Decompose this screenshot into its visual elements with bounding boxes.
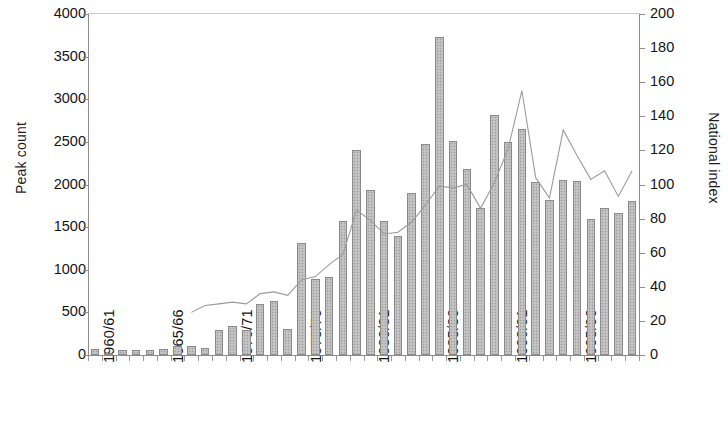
y-axis-right-tick-mark	[640, 355, 645, 356]
y-axis-left-tick-label: 3000	[54, 91, 86, 106]
bar	[380, 221, 389, 355]
bar	[449, 141, 458, 355]
bar	[187, 346, 196, 355]
x-axis-tick-mark	[281, 356, 282, 361]
bar	[173, 346, 182, 355]
y-axis-right-tick-mark	[640, 82, 645, 83]
bar	[435, 37, 444, 355]
y-axis-right-tick-label: 40	[650, 279, 666, 294]
x-axis-tick-mark	[350, 356, 351, 361]
x-axis-tick-mark	[432, 356, 433, 361]
y-axis-right-tick-label: 80	[650, 211, 666, 226]
bar	[518, 129, 527, 355]
bar	[352, 150, 361, 355]
bar	[407, 193, 416, 355]
y-axis-left-tick-label: 3500	[54, 49, 86, 64]
bar	[242, 330, 251, 355]
x-axis-tick-mark	[405, 356, 406, 361]
y-axis-right-tick-mark	[640, 116, 645, 117]
bar	[559, 180, 568, 355]
bar	[490, 115, 499, 355]
y-axis-right-tick-label: 140	[650, 108, 674, 123]
bar	[421, 144, 430, 355]
x-axis-tick-mark	[487, 356, 488, 361]
bar	[311, 279, 320, 355]
bar	[339, 221, 348, 355]
x-axis-tick-mark	[226, 356, 227, 361]
x-axis-tick-mark	[129, 356, 130, 361]
y-axis-right-tick-label: 60	[650, 245, 666, 260]
bar	[256, 304, 265, 355]
bar	[228, 326, 237, 355]
x-axis-tick-mark	[143, 356, 144, 361]
bar	[614, 213, 623, 355]
y-axis-right-tick-label: 200	[650, 6, 674, 21]
chart-container: Peak count National index 05001000150020…	[0, 0, 728, 435]
x-axis-tick-mark	[639, 356, 640, 361]
bar	[587, 219, 596, 355]
y-axis-right-tick-label: 180	[650, 40, 674, 55]
bar	[476, 208, 485, 355]
y-axis-right-tick-label: 100	[650, 177, 674, 192]
y-axis-right-tick-mark	[640, 219, 645, 220]
bar	[283, 329, 292, 355]
y-axis-right-tick-mark	[640, 321, 645, 322]
y-axis-right-tick-label: 20	[650, 313, 666, 328]
x-axis-tick-mark	[501, 356, 502, 361]
x-axis-tick-mark	[556, 356, 557, 361]
bar	[366, 190, 375, 355]
x-axis-tick-mark	[474, 356, 475, 361]
y-axis-right-tick-label: 120	[650, 142, 674, 157]
bar	[215, 330, 224, 355]
y-axis-right-tick-mark	[640, 185, 645, 186]
y-axis-left-tick-label: 1500	[54, 219, 86, 234]
y-axis-right-tick-mark	[640, 287, 645, 288]
y-axis-right-tick-mark	[640, 14, 645, 15]
bar	[545, 200, 554, 355]
bar	[394, 236, 403, 355]
y-axis-right-tick-mark	[640, 48, 645, 49]
x-axis-tick-mark	[88, 356, 89, 361]
bar	[132, 350, 141, 355]
bar	[628, 201, 637, 355]
y-axis-right-tick-label: 160	[650, 74, 674, 89]
y-axis-right-tick-mark	[640, 150, 645, 151]
bar	[91, 349, 100, 355]
y-axis-right-title: National index	[706, 78, 722, 238]
bar	[270, 301, 279, 355]
bar-series-peak-count	[88, 14, 639, 355]
x-axis-tick-mark	[198, 356, 199, 361]
y-axis-left-tick-label: 4000	[54, 6, 86, 21]
y-axis-left-tick-label: 1000	[54, 262, 86, 277]
bar	[325, 277, 334, 355]
x-axis-tick-mark	[419, 356, 420, 361]
x-axis-tick-mark	[212, 356, 213, 361]
bar	[573, 181, 582, 355]
bar	[104, 353, 113, 355]
bar	[297, 243, 306, 355]
bar	[118, 350, 127, 355]
x-axis-tick-mark	[336, 356, 337, 361]
x-axis-tick-mark	[570, 356, 571, 361]
y-axis-left-tick-label: 2500	[54, 134, 86, 149]
x-axis-tick-mark	[543, 356, 544, 361]
bar	[463, 169, 472, 355]
y-axis-right-tick-mark	[640, 253, 645, 254]
bar	[504, 142, 513, 355]
x-axis-tick-mark	[157, 356, 158, 361]
x-axis-tick-mark	[625, 356, 626, 361]
x-axis-tick-mark	[267, 356, 268, 361]
bar	[600, 208, 609, 355]
bar	[146, 350, 155, 355]
x-axis-tick-mark	[611, 356, 612, 361]
bar	[159, 349, 168, 355]
bar	[201, 348, 210, 355]
y-axis-left-title: Peak count	[13, 93, 29, 223]
bar	[531, 182, 540, 355]
y-axis-left-tick-label: 2000	[54, 177, 86, 192]
x-axis-tick-mark	[295, 356, 296, 361]
y-axis-right-tick-label: 0	[650, 347, 658, 362]
x-axis-tick-mark	[364, 356, 365, 361]
